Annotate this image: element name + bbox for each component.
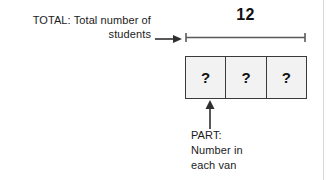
part-boxes-row: ? ? ? bbox=[185, 56, 307, 99]
part-label-line-2: Number in bbox=[191, 143, 311, 158]
total-pointer-arrow-icon bbox=[155, 30, 183, 40]
part-box[interactable]: ? bbox=[225, 56, 266, 99]
part-box-mark: ? bbox=[201, 70, 210, 85]
part-box[interactable]: ? bbox=[266, 56, 307, 99]
part-box-mark: ? bbox=[241, 70, 250, 85]
part-box[interactable]: ? bbox=[185, 56, 226, 99]
total-label: TOTAL: Total number of students bbox=[14, 13, 151, 41]
total-span-bar bbox=[185, 29, 306, 40]
part-label-line-3: each van bbox=[191, 158, 311, 173]
part-pointer-arrow-icon bbox=[203, 100, 217, 130]
total-label-line-2: students bbox=[14, 27, 151, 41]
page-edge-rule bbox=[323, 0, 324, 180]
part-label-line-1: PART: bbox=[191, 128, 311, 143]
part-label: PART: Number in each van bbox=[191, 128, 311, 173]
total-value: 12 bbox=[185, 6, 306, 24]
diagram-canvas: TOTAL: Total number of students 12 ? ? ? bbox=[0, 0, 326, 180]
part-box-mark: ? bbox=[282, 70, 291, 85]
total-label-line-1: TOTAL: Total number of bbox=[14, 13, 151, 27]
